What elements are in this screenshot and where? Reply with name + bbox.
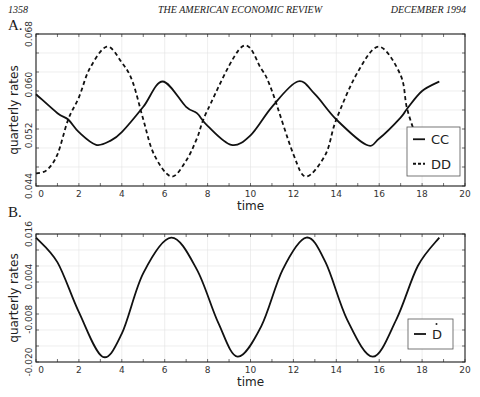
x-tick-label: 4 xyxy=(119,189,125,199)
series-line-dd xyxy=(36,45,418,176)
x-tick-label: 6 xyxy=(162,189,168,199)
x-tick-label: 20 xyxy=(459,189,471,199)
y-tick-label: 0.044 xyxy=(24,173,34,199)
y-tick-label: 0.052 xyxy=(24,122,34,148)
y-tick-label: -0.020 xyxy=(24,347,34,376)
figure-canvas: 024681012141618200.0440.0520.0600.068tim… xyxy=(0,0,480,397)
series-line-d-dot xyxy=(36,238,439,358)
x-tick-label: 18 xyxy=(416,365,428,375)
legend-label: D xyxy=(432,327,442,342)
x-tick-label: 2 xyxy=(76,365,82,375)
chart-panel-a: 024681012141618200.0440.0520.0600.068tim… xyxy=(7,21,471,213)
x-axis-label: time xyxy=(237,375,264,389)
x-tick-label: 14 xyxy=(331,189,343,199)
x-tick-label: 0 xyxy=(38,189,44,199)
y-tick-label: 0.060 xyxy=(24,72,34,98)
x-tick-label: 10 xyxy=(245,189,257,199)
y-axis-label: quarterly rates xyxy=(7,65,21,154)
x-tick-label: 0 xyxy=(38,365,44,375)
x-axis-label: time xyxy=(237,199,264,213)
x-tick-label: 16 xyxy=(373,365,385,375)
legend-label: CC xyxy=(431,132,449,147)
y-tick-label: 0.016 xyxy=(24,221,34,247)
x-tick-label: 10 xyxy=(245,365,257,375)
legend: CCDD xyxy=(407,127,460,176)
x-tick-label: 12 xyxy=(288,365,299,375)
x-tick-label: 4 xyxy=(119,365,125,375)
y-tick-label: 0.004 xyxy=(24,264,34,290)
x-tick-label: 16 xyxy=(373,189,385,199)
x-tick-label: 20 xyxy=(459,365,471,375)
x-tick-label: 12 xyxy=(288,189,299,199)
dot-accent xyxy=(436,323,438,325)
grid-lines xyxy=(36,234,465,362)
chart-panel-b: 02468101214161820-0.020-0.0080.0040.016t… xyxy=(7,221,471,389)
legend-label: DD xyxy=(431,157,451,172)
x-tick-label: 2 xyxy=(76,189,82,199)
grid-lines xyxy=(36,34,465,186)
x-tick-label: 8 xyxy=(205,365,211,375)
x-tick-label: 18 xyxy=(416,189,428,199)
y-axis-label: quarterly rates xyxy=(7,253,21,342)
x-tick-label: 8 xyxy=(205,189,211,199)
y-tick-label: -0.008 xyxy=(24,305,34,334)
x-tick-label: 14 xyxy=(331,365,343,375)
y-tick-label: 0.068 xyxy=(24,21,34,47)
legend: D xyxy=(408,319,453,349)
x-tick-label: 6 xyxy=(162,365,168,375)
